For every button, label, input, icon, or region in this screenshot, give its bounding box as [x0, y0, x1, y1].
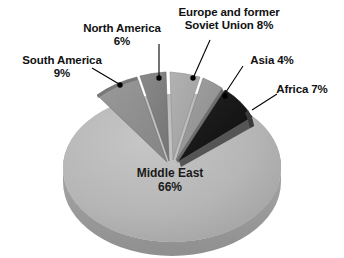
slice-label-europe: Europe and former Soviet Union 8%: [168, 6, 290, 32]
slice-label-middle-east: Middle East 66%: [110, 166, 230, 194]
leader-dot-north-america: [156, 75, 161, 80]
leader-line-europe: [194, 40, 210, 76]
leader-dot-europe: [190, 75, 195, 80]
slice-label-south-america: South America 9%: [6, 54, 118, 80]
slice-label-africa: Africa 7%: [262, 83, 342, 96]
leader-dot-asia: [222, 93, 227, 98]
pie-chart: South America 9% North America 6% Europe…: [0, 0, 344, 258]
leader-dot-south-america: [117, 82, 122, 87]
slice-label-north-america: North America 6%: [66, 22, 178, 48]
leader-line-africa: [252, 94, 277, 110]
slice-label-asia: Asia 4%: [230, 54, 314, 67]
leader-line-asia: [224, 66, 243, 95]
